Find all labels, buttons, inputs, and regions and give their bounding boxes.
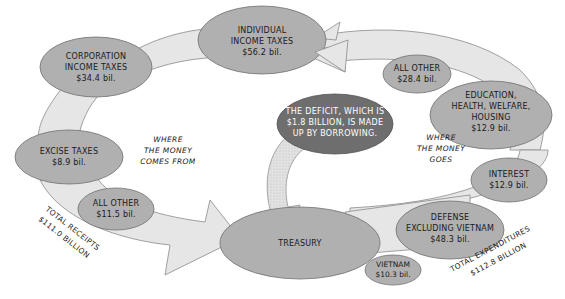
svg-text:INTEREST: INTEREST [489, 170, 529, 179]
svg-text:$12.9 bil.: $12.9 bil. [489, 181, 529, 190]
svg-text:$56.2 bil.: $56.2 bil. [242, 48, 282, 57]
svg-text:THE MONEY: THE MONEY [417, 144, 466, 153]
svg-text:$8.9 bil.: $8.9 bil. [52, 158, 86, 167]
svg-text:WHERE: WHERE [426, 133, 456, 142]
svg-text:DEFENSE: DEFENSE [431, 213, 469, 222]
svg-text:ALL OTHER: ALL OTHER [394, 64, 441, 73]
svg-text:HEALTH, WELFARE,: HEALTH, WELFARE, [451, 102, 530, 111]
svg-text:GOES: GOES [430, 155, 453, 164]
corporation-income-taxes-node: CORPORATION INCOME TAXES $34.4 bil. [40, 37, 152, 97]
svg-text:$28.4 bil.: $28.4 bil. [397, 75, 437, 84]
individual-income-taxes-node: INDIVIDUAL INCOME TAXES $56.2 bil. [198, 6, 326, 74]
interest-node: INTEREST $12.9 bil. [471, 158, 547, 202]
svg-text:WHERE: WHERE [153, 135, 183, 144]
svg-text:CORPORATION: CORPORATION [66, 52, 126, 61]
svg-text:$34.4 bil.: $34.4 bil. [76, 74, 116, 83]
svg-text:$12.9 bil.: $12.9 bil. [471, 124, 511, 133]
excise-taxes-node: EXCISE TAXES $8.9 bil. [15, 130, 123, 184]
svg-text:UP BY BORROWING.: UP BY BORROWING. [293, 129, 378, 138]
svg-text:THE MONEY: THE MONEY [144, 146, 193, 155]
svg-text:VIETNAM: VIETNAM [376, 260, 410, 269]
svg-text:EDUCATION,: EDUCATION, [465, 91, 517, 100]
svg-text:EXCISE TAXES: EXCISE TAXES [40, 147, 98, 156]
svg-text:HOUSING: HOUSING [471, 113, 510, 122]
svg-text:$11.5 bil.: $11.5 bil. [96, 210, 136, 219]
svg-text:THE DEFICIT, WHICH IS: THE DEFICIT, WHICH IS [285, 107, 385, 116]
svg-text:$1.8 BILLION, IS MADE: $1.8 BILLION, IS MADE [287, 118, 384, 127]
svg-text:$48.3 bil.: $48.3 bil. [430, 235, 470, 244]
budget-flow-diagram: TREASURY INDIVIDUAL INCOME TAXES $56.2 b… [0, 0, 565, 299]
svg-text:$10.3 bil.: $10.3 bil. [375, 270, 410, 279]
svg-text:ALL OTHER: ALL OTHER [93, 199, 140, 208]
svg-text:COMES FROM: COMES FROM [140, 157, 196, 166]
vietnam-node: VIETNAM $10.3 bil. [365, 255, 421, 285]
all-other-receipts-node: ALL OTHER $11.5 bil. [78, 188, 154, 230]
receipts-heading: WHERE THE MONEY COMES FROM [140, 135, 196, 166]
treasury-node: TREASURY [220, 207, 380, 279]
svg-text:INDIVIDUAL: INDIVIDUAL [238, 26, 287, 35]
svg-text:INCOME TAXES: INCOME TAXES [65, 63, 127, 72]
treasury-label: TREASURY [277, 239, 321, 248]
deficit-node: THE DEFICIT, WHICH IS $1.8 BILLION, IS M… [277, 94, 393, 154]
svg-text:EXCLUDING VIETNAM: EXCLUDING VIETNAM [406, 224, 494, 233]
svg-text:INCOME TAXES: INCOME TAXES [231, 37, 293, 46]
all-other-expenditures-node: ALL OTHER $28.4 bil. [383, 55, 451, 93]
